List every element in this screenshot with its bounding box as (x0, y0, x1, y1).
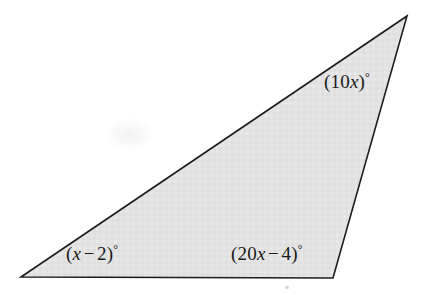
angle-label-bottom-right: (20x−4)° (231, 244, 303, 264)
angle-constant: 4 (282, 243, 292, 264)
degree-symbol: ° (365, 70, 370, 84)
triangle-graphic (0, 0, 430, 295)
angle-variable: x (257, 243, 266, 264)
angle-constant: 2 (97, 243, 107, 264)
angle-coefficient: 10 (331, 71, 350, 92)
figure-canvas: (10x)° (x−2)° (20x−4)° (0, 0, 430, 295)
angle-operator: − (266, 243, 282, 264)
angle-label-bottom-left: (x−2)° (66, 244, 118, 264)
angle-variable: x (350, 71, 359, 92)
angle-variable: x (73, 243, 82, 264)
angle-coefficient: 20 (238, 243, 257, 264)
angle-label-top-right: (10x)° (324, 72, 370, 92)
degree-symbol: ° (113, 242, 118, 256)
triangle-shape (21, 16, 407, 278)
angle-operator: − (81, 243, 97, 264)
degree-symbol: ° (298, 242, 303, 256)
